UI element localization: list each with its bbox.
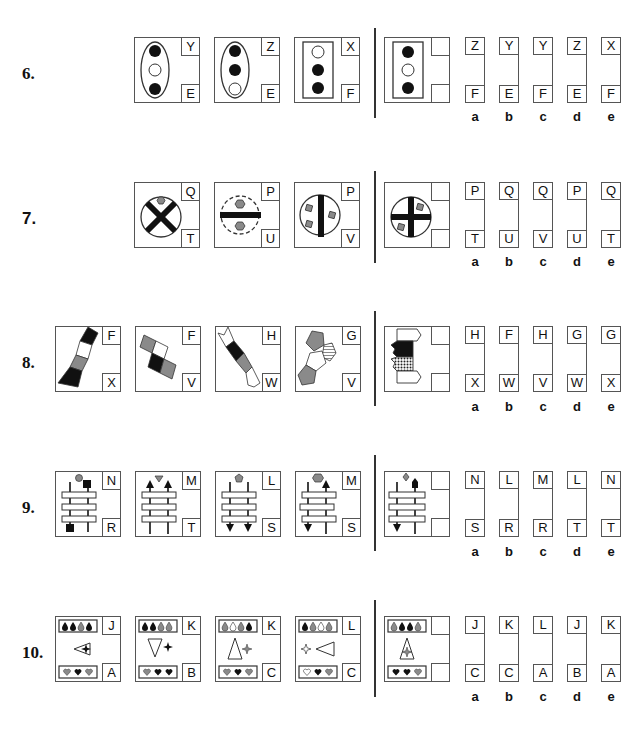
option-6-d[interactable]: ZE bbox=[567, 37, 587, 103]
option-10-d[interactable]: JB bbox=[567, 616, 587, 682]
option-label-d[interactable]: d bbox=[567, 689, 587, 704]
option-label-c[interactable]: c bbox=[533, 254, 553, 269]
option-letter-bottom: T bbox=[601, 519, 621, 537]
blank-letter-top bbox=[431, 183, 449, 201]
option-letter-top: K bbox=[601, 616, 621, 634]
option-letter-bottom: R bbox=[533, 519, 553, 537]
figure-7-2: P U bbox=[214, 182, 280, 248]
option-letter-bottom: U bbox=[499, 230, 519, 248]
figure-letter-top: L bbox=[342, 617, 360, 635]
option-letter-top: K bbox=[499, 616, 519, 634]
figure-letter-bottom: A bbox=[102, 663, 120, 681]
option-label-c[interactable]: c bbox=[533, 109, 553, 124]
option-9-c[interactable]: MR bbox=[533, 471, 553, 537]
option-letter-bottom: W bbox=[499, 374, 519, 392]
option-10-c[interactable]: LA bbox=[533, 616, 553, 682]
option-letter-top: J bbox=[465, 616, 485, 634]
option-7-d[interactable]: PU bbox=[567, 182, 587, 248]
option-10-e[interactable]: KA bbox=[601, 616, 621, 682]
option-8-d[interactable]: GW bbox=[567, 326, 587, 392]
option-letter-top: H bbox=[533, 326, 553, 344]
question-number-6: 6. bbox=[22, 64, 35, 84]
option-letter-top: H bbox=[465, 326, 485, 344]
option-label-d[interactable]: d bbox=[567, 544, 587, 559]
figure-letter-bottom: X bbox=[102, 373, 120, 391]
option-9-d[interactable]: LT bbox=[567, 471, 587, 537]
figure-8-2: F V bbox=[135, 326, 201, 392]
option-label-b[interactable]: b bbox=[499, 254, 519, 269]
figure-10-3: K C bbox=[215, 616, 281, 682]
blank-letter-top bbox=[431, 617, 449, 635]
option-label-e[interactable]: e bbox=[601, 254, 621, 269]
option-6-e[interactable]: XF bbox=[601, 37, 621, 103]
option-label-a[interactable]: a bbox=[465, 544, 485, 559]
option-letter-top: G bbox=[601, 326, 621, 344]
option-label-d[interactable]: d bbox=[567, 254, 587, 269]
option-label-a[interactable]: a bbox=[465, 399, 485, 414]
option-label-e[interactable]: e bbox=[601, 689, 621, 704]
option-letter-top: Q bbox=[533, 182, 553, 200]
option-8-c[interactable]: HV bbox=[533, 326, 553, 392]
option-10-b[interactable]: KC bbox=[499, 616, 519, 682]
option-9-a[interactable]: NS bbox=[465, 471, 485, 537]
option-letter-bottom: E bbox=[499, 85, 519, 103]
figure-letter-top: M bbox=[342, 472, 360, 490]
option-label-b[interactable]: b bbox=[499, 689, 519, 704]
option-letter-bottom: T bbox=[465, 230, 485, 248]
option-label-a[interactable]: a bbox=[465, 254, 485, 269]
option-label-c[interactable]: c bbox=[533, 689, 553, 704]
option-letter-bottom: R bbox=[499, 519, 519, 537]
option-6-a[interactable]: ZF bbox=[465, 37, 485, 103]
figure-letter-bottom: V bbox=[182, 373, 200, 391]
option-10-a[interactable]: JC bbox=[465, 616, 485, 682]
blank-letter-top bbox=[431, 472, 449, 490]
figure-letter-top: G bbox=[342, 327, 360, 345]
figure-letter-bottom: E bbox=[181, 84, 199, 102]
option-8-b[interactable]: FW bbox=[499, 326, 519, 392]
option-7-b[interactable]: QU bbox=[499, 182, 519, 248]
divider-6 bbox=[374, 28, 376, 118]
option-8-e[interactable]: GX bbox=[601, 326, 621, 392]
option-letter-bottom: S bbox=[465, 519, 485, 537]
option-7-e[interactable]: QT bbox=[601, 182, 621, 248]
option-9-e[interactable]: NT bbox=[601, 471, 621, 537]
figure-letter-bottom: S bbox=[342, 518, 360, 536]
figure-letter-top: J bbox=[102, 617, 120, 635]
option-letter-top: L bbox=[499, 471, 519, 489]
option-label-d[interactable]: d bbox=[567, 109, 587, 124]
figure-letter-top: L bbox=[262, 472, 280, 490]
blank-letter-bottom bbox=[431, 518, 449, 536]
figure-letter-bottom: S bbox=[262, 518, 280, 536]
option-6-c[interactable]: YF bbox=[533, 37, 553, 103]
option-label-a[interactable]: a bbox=[465, 689, 485, 704]
figure-letter-bottom: V bbox=[342, 373, 360, 391]
option-label-e[interactable]: e bbox=[601, 399, 621, 414]
figure-letter-bottom: C bbox=[262, 663, 280, 681]
option-letter-bottom: F bbox=[601, 85, 621, 103]
divider-8 bbox=[374, 311, 376, 406]
option-label-b[interactable]: b bbox=[499, 399, 519, 414]
figure-8-4: G V bbox=[295, 326, 361, 392]
figure-letter-top: N bbox=[102, 472, 120, 490]
option-letter-bottom: F bbox=[533, 85, 553, 103]
option-7-c[interactable]: QV bbox=[533, 182, 553, 248]
question-number-7: 7. bbox=[22, 209, 36, 229]
option-label-b[interactable]: b bbox=[499, 109, 519, 124]
option-label-d[interactable]: d bbox=[567, 399, 587, 414]
option-label-b[interactable]: b bbox=[499, 544, 519, 559]
figure-letter-top: X bbox=[341, 38, 359, 56]
figure-8-3: H W bbox=[215, 326, 281, 392]
option-label-c[interactable]: c bbox=[533, 544, 553, 559]
option-6-b[interactable]: YE bbox=[499, 37, 519, 103]
figure-letter-top: Q bbox=[181, 183, 199, 201]
figure-letter-bottom: U bbox=[261, 229, 279, 247]
option-label-e[interactable]: e bbox=[601, 544, 621, 559]
option-label-c[interactable]: c bbox=[533, 399, 553, 414]
option-label-e[interactable]: e bbox=[601, 109, 621, 124]
option-8-a[interactable]: HX bbox=[465, 326, 485, 392]
option-9-b[interactable]: LR bbox=[499, 471, 519, 537]
option-label-a[interactable]: a bbox=[465, 109, 485, 124]
option-7-a[interactable]: PT bbox=[465, 182, 485, 248]
blank-letter-bottom bbox=[431, 373, 449, 391]
option-letter-top: Y bbox=[499, 37, 519, 55]
